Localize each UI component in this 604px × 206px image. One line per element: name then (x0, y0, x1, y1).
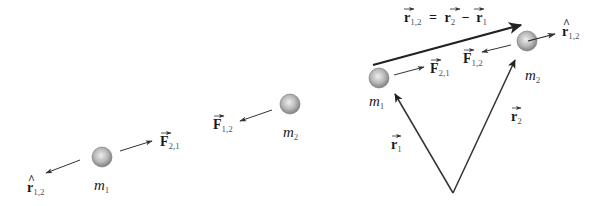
mass1-ball-right (369, 68, 389, 88)
unit-vector-label-right: ^ r1,2 (562, 16, 579, 41)
mass1-label-right: m1 (369, 93, 384, 111)
svg-text:F1,2: F1,2 (463, 51, 483, 68)
relative-position-arrow (373, 25, 521, 65)
svg-text:F1,2: F1,2 (213, 117, 233, 134)
mass2-ball-right (517, 31, 537, 51)
force21-label-left: F2,1 (160, 133, 180, 151)
svg-text:r1,2: r1,2 (27, 180, 44, 197)
equation: r1,2 = r2 − r1 (404, 9, 487, 28)
right-panel: r1,2 = r2 − r1 m1 m2 F2,1 F1,2 ^ r1,2 (369, 9, 579, 193)
mass2-ball-left (280, 94, 300, 114)
position1-label: r1 (391, 136, 402, 154)
mass1-ball-left (92, 147, 112, 167)
svg-text:r1,2: r1,2 (562, 24, 579, 41)
unit-vector-label-left: ^ r1,2 (27, 172, 44, 197)
force12-label-left: F1,2 (213, 116, 233, 134)
svg-text:r1: r1 (391, 137, 402, 154)
position1-arrow (395, 94, 453, 193)
mass2-label-left: m2 (283, 124, 298, 142)
force12-label-right: F1,2 (463, 50, 483, 68)
force21-arrow-right (394, 67, 424, 75)
force21-arrow-left (120, 141, 152, 151)
mass2-label-right: m2 (525, 67, 540, 85)
svg-text:F2,1: F2,1 (430, 61, 450, 78)
svg-text:r1,2 = r2: r1,2 = r2 − r1 (404, 10, 487, 28)
position2-arrow (453, 60, 515, 193)
mass1-label-left: m1 (94, 177, 109, 195)
force12-arrow-right (482, 45, 511, 52)
force12-arrow-left (240, 110, 272, 121)
svg-text:r2: r2 (511, 109, 522, 126)
force21-label-right: F2,1 (430, 60, 450, 78)
gravitational-force-diagram: m1 m2 F2,1 F1,2 ^ r1,2 (0, 0, 604, 206)
unit-vector-arrow-left (46, 160, 80, 173)
left-panel: m1 m2 F2,1 F1,2 ^ r1,2 (27, 94, 300, 197)
position2-label: r2 (511, 108, 522, 126)
svg-text:F2,1: F2,1 (160, 134, 180, 151)
